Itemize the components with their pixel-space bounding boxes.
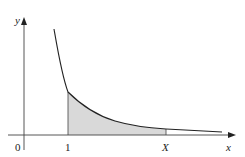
tick-label-X: X [161,141,170,153]
tick-label-one: 1 [65,141,71,153]
y-axis-label: y [14,14,20,26]
shaded-region [68,92,166,135]
y-axis-arrow-icon [21,17,27,25]
figure: y x 0 1 X [0,0,245,157]
origin-label: 0 [15,141,21,153]
x-axis-label: x [225,141,231,153]
x-axis-arrow-icon [228,132,236,138]
